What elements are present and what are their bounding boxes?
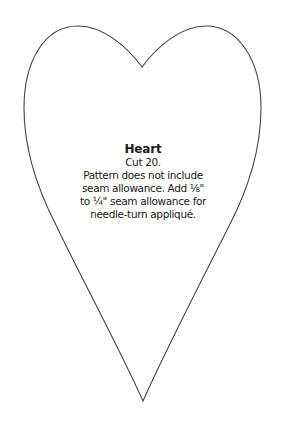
heart-pattern-page: Heart Cut 20. Pattern does not include s…: [0, 0, 283, 427]
instruction-line-4: needle-turn appliqué.: [60, 208, 226, 221]
instruction-line-3: to ¼" seam allowance for: [60, 195, 226, 208]
instruction-line-2: seam allowance. Add ⅛": [60, 182, 226, 195]
cut-count: Cut 20.: [60, 156, 226, 169]
pattern-label: Heart Cut 20. Pattern does not include s…: [60, 142, 226, 221]
instruction-line-1: Pattern does not include: [60, 169, 226, 182]
pattern-title: Heart: [60, 142, 226, 156]
